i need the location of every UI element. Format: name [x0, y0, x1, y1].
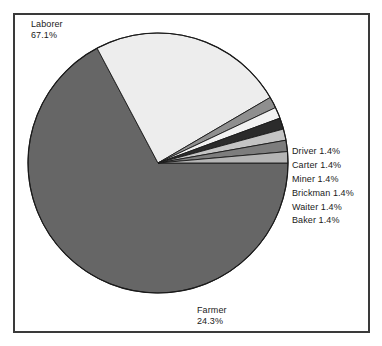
slice-label-farmer-percent: 24.3% [197, 316, 227, 327]
pie-chart-figure: Laborer 67.1% Farmer 24.3% Driver 1.4% C… [0, 0, 382, 346]
slice-label-baker: Baker 1.4% [292, 215, 340, 226]
pie-svg [0, 0, 382, 346]
slice-label-laborer-percent: 67.1% [31, 30, 63, 41]
pie-slice-group [28, 33, 288, 293]
slice-label-farmer-name: Farmer [197, 305, 227, 316]
slice-label-laborer: Laborer 67.1% [31, 19, 63, 41]
slice-label-brickman: Brickman 1.4% [292, 188, 354, 199]
slice-label-farmer: Farmer 24.3% [197, 305, 227, 327]
slice-label-driver: Driver 1.4% [292, 146, 340, 157]
slice-label-laborer-name: Laborer [31, 19, 63, 30]
slice-label-miner: Miner 1.4% [292, 174, 339, 185]
slice-label-carter: Carter 1.4% [292, 160, 341, 171]
slice-label-waiter: Waiter 1.4% [292, 202, 342, 213]
